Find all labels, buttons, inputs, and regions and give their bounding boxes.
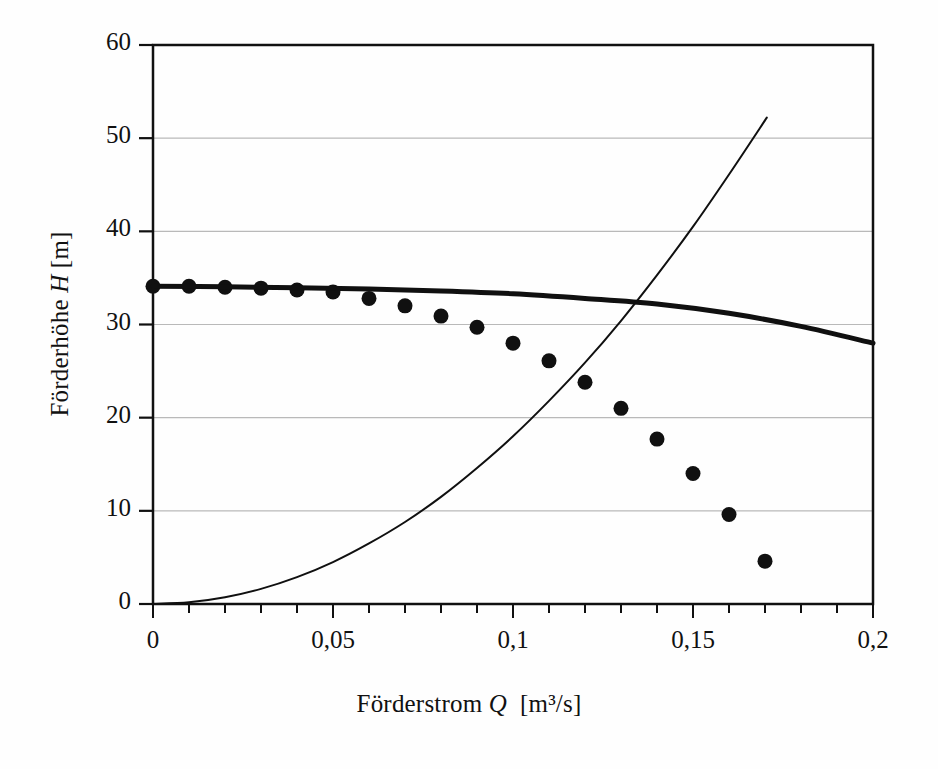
series-data-point [722, 507, 737, 522]
series-data-point [758, 554, 773, 569]
grid-lines [153, 138, 873, 511]
x-axis-tick-label: 0 [108, 626, 198, 654]
x-axis-tick-label: 0,2 [828, 626, 918, 654]
series-data-point [398, 298, 413, 313]
series-line [153, 118, 767, 604]
x-axis-tick-label: 0,1 [468, 626, 558, 654]
series-data-point [578, 375, 593, 390]
x-axis-title-name: Förderstrom [357, 690, 483, 717]
y-axis-tick-label: 30 [61, 308, 131, 336]
y-axis-title-symbol: H [46, 275, 73, 293]
axis-ticks [139, 45, 873, 618]
y-axis-tick-label: 40 [61, 214, 131, 242]
y-axis-tick-label: 10 [61, 494, 131, 522]
x-axis-title-symbol: Q [489, 690, 507, 717]
x-axis-title-unit: [m³/s] [520, 690, 581, 717]
y-axis-tick-label: 20 [61, 401, 131, 429]
series-data-point [614, 401, 629, 416]
series-data-point [362, 291, 377, 306]
x-axis-tick-label: 0,15 [648, 626, 738, 654]
series-data-point [686, 466, 701, 481]
series-data-point [434, 309, 449, 324]
y-axis-tick-label: 0 [61, 587, 131, 615]
series-data-point [542, 353, 557, 368]
series-data-point [506, 336, 521, 351]
x-axis-title: Förderstrom Q [m³/s] [0, 690, 938, 718]
y-axis-tick-label: 50 [61, 121, 131, 149]
x-axis-tick-label: 0,05 [288, 626, 378, 654]
data-series-layer [146, 118, 874, 604]
series-data-point [470, 320, 485, 335]
y-axis-tick-label: 60 [61, 28, 131, 56]
chart-figure: Förderhöhe H [m] Förderstrom Q [m³/s] 01… [0, 0, 938, 769]
series-data-point [650, 432, 665, 447]
